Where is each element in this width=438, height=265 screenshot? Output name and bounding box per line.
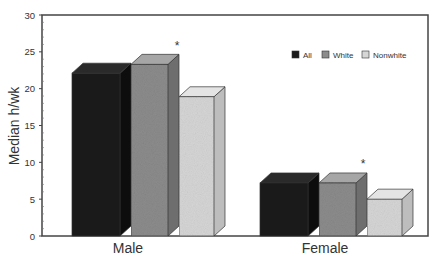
legend-label: White — [333, 51, 354, 60]
legend-label: All — [303, 51, 312, 60]
bar-male-white — [131, 54, 179, 236]
bar-male-nonwhite — [179, 87, 225, 236]
legend-label: Nonwhite — [373, 51, 407, 60]
legend-item-white: White — [322, 51, 354, 60]
bar-female-all — [260, 173, 319, 236]
x-category-label: Male — [113, 240, 144, 256]
legend-swatch — [362, 51, 369, 58]
y-tick-label: 20 — [24, 83, 35, 94]
significance-asterisk: * — [361, 157, 366, 171]
significance-asterisk: * — [175, 39, 180, 53]
bar-female-nonwhite — [367, 189, 413, 236]
y-tick-label: 10 — [24, 157, 35, 168]
y-axis-label: Median h/wk — [6, 86, 22, 166]
y-tick-label: 25 — [24, 46, 35, 57]
bar-chart: 051015202530 MaleFemale** AllWhiteNonwhi… — [0, 0, 438, 265]
y-tick-label: 30 — [24, 10, 35, 21]
bar-female-white — [319, 173, 367, 236]
legend-swatch — [322, 51, 329, 58]
y-tick-label: 15 — [24, 120, 35, 131]
legend-item-nonwhite: Nonwhite — [362, 51, 407, 60]
y-tick-label: 5 — [30, 194, 35, 205]
x-category-label: Female — [302, 240, 349, 256]
y-tick-label: 0 — [30, 231, 35, 242]
bars-group: MaleFemale** — [72, 39, 413, 256]
legend-swatch — [292, 51, 299, 58]
bar-group-male: Male — [72, 54, 225, 256]
bar-group-female: Female — [260, 173, 413, 256]
legend: AllWhiteNonwhite — [292, 51, 407, 60]
bar-male-all — [72, 63, 131, 236]
legend-item-all: All — [292, 51, 312, 60]
